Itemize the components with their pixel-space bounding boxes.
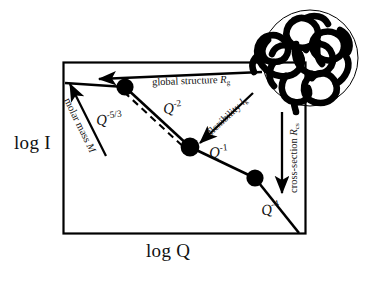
annotation-text: cross-section <box>288 138 299 193</box>
annotation-cross-section: cross-section Rcs <box>288 123 299 193</box>
marker-dot <box>246 169 263 186</box>
annotation-subscript: g <box>227 79 231 87</box>
annotation-symbol: R <box>220 74 227 85</box>
marker-dot <box>181 138 200 157</box>
power-law-exponent: -4 <box>270 198 280 210</box>
power-law-q-minus-2: Q-2 <box>162 98 183 118</box>
coil-chain <box>252 16 349 112</box>
power-law-q-minus-1: Q-1 <box>208 142 228 162</box>
annotation-subscript: cs <box>293 123 301 129</box>
power-law-exponent: -2 <box>173 98 182 109</box>
power-law-exponent: -5/3 <box>106 108 122 120</box>
scattering-schematic-figure <box>0 0 368 281</box>
power-law-exponent: -1 <box>219 142 228 153</box>
power-law-q-minus-5-3: Q-5/3 <box>95 108 123 129</box>
annotation-text: global structure <box>152 74 218 87</box>
annotation-symbol: R <box>288 129 299 135</box>
y-axis-label-text: log I <box>14 132 51 153</box>
polymer-coil-illustration <box>252 10 358 112</box>
y-axis-label: log I <box>14 132 51 154</box>
x-axis-label-text: log Q <box>146 240 190 261</box>
marker-dot <box>116 78 133 95</box>
x-axis-label: log Q <box>146 240 190 262</box>
